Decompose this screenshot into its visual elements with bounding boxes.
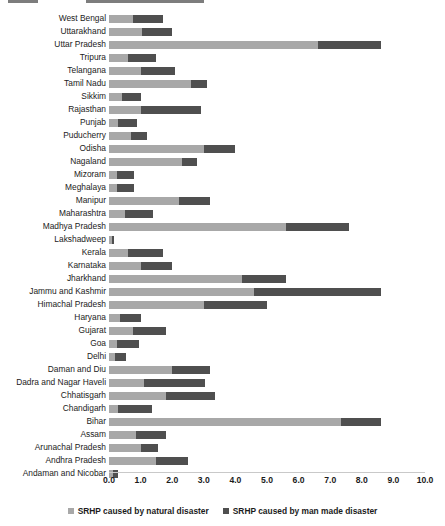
category-label: Jharkhand [0,272,106,285]
category-label: Goa [0,337,106,350]
bar-segment-man-made-disaster [133,327,166,335]
bar-segment-man-made-disaster [141,106,201,114]
chart-row: Dadra and Nagar Haveli [0,376,445,389]
bar-segment-man-made-disaster [286,223,349,231]
x-tick-label: 6.0 [293,475,305,485]
bar-segment-man-made-disaster [120,314,141,322]
bar-track [109,119,425,127]
bar-segment-natural-disaster [109,41,318,49]
bar-segment-natural-disaster [109,54,128,62]
bar-track [109,41,425,49]
bar-track [109,288,425,296]
bar-track [109,314,425,322]
legend-label: SRHP caused by natural disaster [78,506,209,516]
legend-item[interactable]: SRHP caused by natural disaster [68,506,209,516]
bar-segment-man-made-disaster [128,249,163,257]
chart-row: Madhya Pradesh [0,220,445,233]
chart-row: Jammu and Kashmir [0,285,445,298]
bar-track [109,15,425,23]
chart-row: Lakshadweep [0,233,445,246]
x-tick-label: 3.0 [198,475,210,485]
legend-item[interactable]: SRHP caused by man made disaster [223,506,378,516]
category-label: Chandigarh [0,402,106,415]
category-label: Daman and Diu [0,363,106,376]
bar-segment-natural-disaster [109,314,120,322]
category-label: Andhra Pradesh [0,454,106,467]
legend-swatch-icon [68,508,74,514]
bar-track [109,405,425,413]
bar-segment-man-made-disaster [204,301,267,309]
bar-segment-man-made-disaster [156,457,188,465]
bar-segment-man-made-disaster [254,288,380,296]
bar-track [109,197,425,205]
bar-track [109,249,425,257]
bar-track [109,54,425,62]
x-axis-line [109,472,425,473]
x-tick-label: 4.0 [229,475,241,485]
chart-row: Himachal Pradesh [0,298,445,311]
category-label: Punjab [0,116,106,129]
category-label: Gujarat [0,324,106,337]
chart-row: Kerala [0,246,445,259]
bar-segment-natural-disaster [109,275,242,283]
bar-track [109,80,425,88]
bar-track [109,392,425,400]
category-label: Tamil Nadu [0,77,106,90]
category-label: Chhatisgarh [0,389,106,402]
bar-segment-natural-disaster [109,93,122,101]
chart-row: Daman and Diu [0,363,445,376]
bar-track [109,132,425,140]
bar-segment-man-made-disaster [341,418,381,426]
bar-segment-natural-disaster [109,210,125,218]
bar-segment-natural-disaster [109,249,128,257]
chart-row: Punjab [0,116,445,129]
bar-segment-natural-disaster [109,340,117,348]
bar-track [109,366,425,374]
chart-row: Uttarakhand [0,25,445,38]
bar-segment-natural-disaster [109,431,136,439]
chart-row: Maharashtra [0,207,445,220]
x-tick-label: 8.0 [356,475,368,485]
category-label: Kerala [0,246,106,259]
bar-segment-natural-disaster [109,171,117,179]
category-label: Dadra and Nagar Haveli [0,376,106,389]
bar-segment-man-made-disaster [133,15,163,23]
bar-segment-natural-disaster [109,67,141,75]
category-label: Rajasthan [0,103,106,116]
bar-track [109,184,425,192]
chart-row: Assam [0,428,445,441]
bar-segment-man-made-disaster [122,93,141,101]
bar-segment-natural-disaster [109,80,191,88]
category-label: Puducherry [0,129,106,142]
bar-segment-natural-disaster [109,457,156,465]
chart-row: Odisha [0,142,445,155]
category-label: Manipur [0,194,106,207]
category-label: Himachal Pradesh [0,298,106,311]
bar-segment-man-made-disaster [118,405,151,413]
category-label: Haryana [0,311,106,324]
x-tick-label: 0.0 [103,475,115,485]
category-label: Madhya Pradesh [0,220,106,233]
category-label: Sikkim [0,90,106,103]
x-axis: 0.01.02.03.04.05.06.07.08.09.010.0 [0,472,445,490]
bar-segment-man-made-disaster [242,275,286,283]
chart-row: Puducherry [0,129,445,142]
bar-segment-natural-disaster [109,392,166,400]
bar-segment-man-made-disaster [144,379,206,387]
chart-row: Bihar [0,415,445,428]
bar-track [109,353,425,361]
bar-segment-natural-disaster [109,184,117,192]
bar-segment-man-made-disaster [318,41,381,49]
bar-segment-natural-disaster [109,327,133,335]
bar-track [109,431,425,439]
chart-row: West Bengal [0,12,445,25]
bar-track [109,28,425,36]
category-label: Nagaland [0,155,106,168]
bar-segment-man-made-disaster [118,119,137,127]
chart-row: Meghalaya [0,181,445,194]
x-tick-label: 5.0 [261,475,273,485]
bar-segment-natural-disaster [109,366,172,374]
bar-segment-man-made-disaster [115,353,126,361]
bar-segment-man-made-disaster [142,28,172,36]
bar-segment-man-made-disaster [179,197,211,205]
